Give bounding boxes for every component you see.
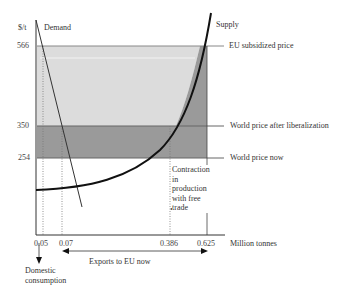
contraction-line-2: in [172,175,210,185]
exports-arrow-right-head [201,248,208,254]
y-axis-unit: $/t [18,24,26,32]
contraction-line-3: production [172,184,210,194]
exports-arrow-left-head [62,248,69,254]
contraction-line-1: Contraction [172,165,210,175]
x-axis-unit: Million tonnes [230,240,277,248]
contraction-annotation: Contraction in production with free trad… [172,165,210,213]
y-tick-350: 350 [17,122,29,130]
x-tick-0.386: 0.386 [160,240,178,248]
x-tick-0.07: 0.07 [59,240,73,248]
x-tick-0.625: 0.625 [197,240,215,248]
exports-label: Exports to EU now [89,258,151,266]
y-tick-566: 566 [17,42,29,50]
domestic-line-2: consumption [25,276,66,286]
supply-label: Supply [216,21,239,29]
world-now-label: World price now [230,154,284,162]
domestic-line-1: Domestic [25,266,66,276]
y-tick-254: 254 [18,154,30,162]
demand-label: Demand [44,24,71,32]
eu-price-label: EU subsidized price [229,42,293,50]
contraction-line-4: with free [172,194,210,204]
domestic-consumption-annotation: Domestic consumption [25,266,66,285]
world-after-label: World price after liberalization [230,122,329,130]
domestic-arrow-head [36,257,42,264]
contraction-line-5: trade [172,203,210,213]
x-tick-0.05: 0.05 [34,240,48,248]
dark-shaded-band [37,126,207,158]
